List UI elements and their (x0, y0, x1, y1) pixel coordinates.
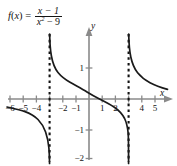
x-tick-label-1: 1 (95, 104, 109, 113)
plot-canvas (0, 0, 177, 166)
x-tick-label-5: 5 (148, 104, 162, 113)
x-tick-label-4: 4 (135, 104, 149, 113)
x-axis (8, 96, 173, 103)
y-tick-label-neg1: −1 (70, 126, 84, 135)
x-tick-label-2: 2 (108, 104, 122, 113)
y-axis-label: y (91, 22, 95, 32)
y-tick-label-1: 1 (74, 64, 84, 73)
x-tick-label-neg1: −1 (68, 104, 84, 113)
y-tick-label-neg2: −2 (70, 154, 84, 163)
left-branch (7, 107, 50, 164)
x-axis-label: x (160, 89, 164, 99)
rational-function-figure: f(x) = x − 1 x2 − 9 (0, 0, 177, 166)
x-tick-label-neg4: −4 (28, 104, 44, 113)
right-branch (129, 34, 168, 89)
